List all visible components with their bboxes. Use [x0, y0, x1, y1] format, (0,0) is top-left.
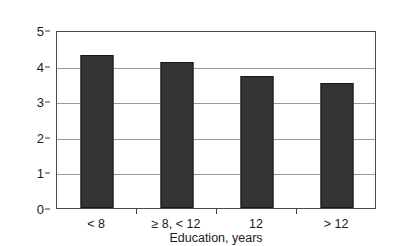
bar-slot-3: [297, 32, 377, 208]
y-tick-label-2: 2: [37, 131, 44, 144]
y-tickmark-5: [45, 31, 50, 32]
bar-chart: Mean allostatic load 0 1 2 3 4 5: [0, 0, 395, 246]
bar-3[interactable]: [321, 83, 354, 208]
bar-0[interactable]: [81, 55, 114, 208]
x-tickmark-1: [216, 209, 217, 214]
x-tickmark-2: [296, 209, 297, 214]
bar-slot-2: [217, 32, 297, 208]
y-tickmark-1: [45, 173, 50, 174]
y-tick-label-1: 1: [37, 167, 44, 180]
y-axis-tick-labels: 0 1 2 3 4 5: [24, 31, 50, 209]
x-tick-label-1: ≥ 8, < 12: [152, 216, 201, 232]
bars-layer: [57, 32, 375, 208]
bar-slot-1: [137, 32, 217, 208]
y-tick-label-0: 0: [37, 203, 44, 216]
y-tickmark-4: [45, 66, 50, 67]
bar-1[interactable]: [161, 62, 194, 208]
y-tickmark-2: [45, 137, 50, 138]
bar-slot-0: [57, 32, 137, 208]
y-tick-label-4: 4: [37, 60, 44, 73]
plot-area: [56, 31, 376, 209]
x-tick-label-0: < 8: [87, 216, 105, 232]
x-tick-label-2: 12: [249, 216, 263, 232]
x-tick-label-3: > 12: [324, 216, 349, 232]
y-tickmark-3: [45, 102, 50, 103]
y-tickmark-0: [45, 209, 50, 210]
x-axis-title: Education, years: [56, 231, 376, 245]
x-tickmark-0: [136, 209, 137, 214]
y-tick-label-5: 5: [37, 25, 44, 38]
y-tick-label-3: 3: [37, 96, 44, 109]
bar-2[interactable]: [241, 76, 274, 208]
